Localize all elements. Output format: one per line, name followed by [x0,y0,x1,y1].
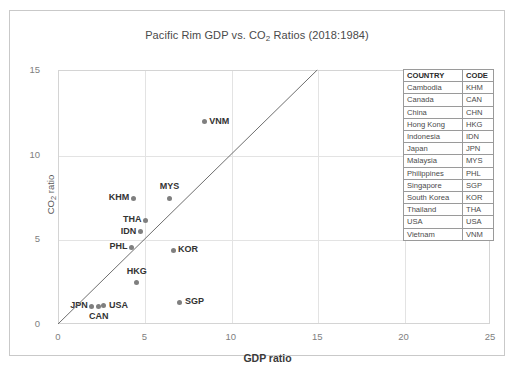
legend-row: IndonesiaIDN [404,131,494,143]
chart-title-tail: Ratios (2018:1984) [270,29,369,41]
legend-row: JapanJPN [404,143,494,155]
legend-cell-country: Canada [404,94,463,106]
legend-row: Hong KongHKG [404,118,494,130]
legend-cell-code: SGP [463,179,494,191]
legend-cell-code: THA [463,204,494,216]
legend-row: ThailandTHA [404,204,494,216]
y-tick-label: 10 [0,149,40,160]
legend-cell-country: South Korea [404,192,463,204]
legend-cell-country: China [404,106,463,118]
x-tick-label: 25 [470,331,510,342]
x-tick-label: 5 [124,331,164,342]
legend-row: PhilippinesPHL [404,167,494,179]
legend-cell-country: Japan [404,143,463,155]
legend-cell-code: KHM [463,82,494,94]
x-axis-label: GDP ratio [10,352,515,364]
legend-cell-country: Cambodia [404,82,463,94]
y-tick-label: 0 [0,318,40,329]
y-axis-label: CO2 ratio [45,150,56,240]
legend-cell-code: CHN [463,106,494,118]
legend-cell-country: USA [404,216,463,228]
legend-header-country: COUNTRY [404,70,463,82]
legend-cell-code: JPN [463,143,494,155]
legend-cell-country: Indonesia [404,131,463,143]
legend-row: USAUSA [404,216,494,228]
chart-title: Pacific Rim GDP vs. CO2 Ratios (2018:198… [10,29,504,41]
y-axis-label-main: CO [45,200,56,214]
legend-cell-country: Philippines [404,167,463,179]
y-tick-label: 15 [0,64,40,75]
legend-row: South KoreaKOR [404,192,494,204]
chart-frame: Pacific Rim GDP vs. CO2 Ratios (2018:198… [9,10,505,356]
legend-cell-code: HKG [463,118,494,130]
legend-cell-country: Hong Kong [404,118,463,130]
chart-title-main: Pacific Rim GDP vs. CO [145,29,266,41]
legend-row: ChinaCHN [404,106,494,118]
y-axis-label-tail: ratio [45,175,56,196]
legend-row: CambodiaKHM [404,82,494,94]
chart-title-subscript: 2 [266,34,271,43]
legend-cell-code: MYS [463,155,494,167]
legend-row: CanadaCAN [404,94,494,106]
x-tick-label: 15 [297,331,337,342]
reference-line-segment [58,70,317,324]
legend-cell-code: IDN [463,131,494,143]
legend-cell-code: VNM [463,228,494,240]
legend-cell-code: PHL [463,167,494,179]
legend-table-body: CambodiaKHMCanadaCANChinaCHNHong KongHKG… [404,82,494,241]
legend-cell-country: Malaysia [404,155,463,167]
legend-cell-country: Singapore [404,179,463,191]
y-tick-label: 5 [0,233,40,244]
x-tick-label: 0 [38,331,78,342]
y-axis-label-subscript: 2 [49,196,58,200]
x-tick-label: 10 [211,331,251,342]
legend-country-code-table: COUNTRY CODE CambodiaKHMCanadaCANChinaCH… [403,69,494,241]
legend-cell-code: CAN [463,94,494,106]
legend-row: MalaysiaMYS [404,155,494,167]
legend-header-row: COUNTRY CODE [404,70,494,82]
legend-cell-country: Vietnam [404,228,463,240]
legend-cell-code: USA [463,216,494,228]
legend-row: VietnamVNM [404,228,494,240]
legend-header-code: CODE [463,70,494,82]
legend-cell-country: Thailand [404,204,463,216]
legend-cell-code: KOR [463,192,494,204]
legend-row: SingaporeSGP [404,179,494,191]
x-tick-label: 20 [384,331,424,342]
